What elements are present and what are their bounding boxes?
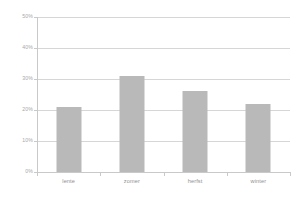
x-axis-category-label: zomer (124, 179, 140, 185)
x-axis-tick (164, 173, 165, 176)
y-axis-tick-label: 0% (25, 169, 33, 174)
bar-slot (100, 17, 163, 172)
x-axis-tick (37, 173, 38, 176)
x-axis-tick (100, 173, 101, 176)
bar-slot (37, 17, 100, 172)
x-axis-tick (290, 173, 291, 176)
x-axis-category-label: lente (62, 179, 75, 185)
bar-chart-figure: 0%10%20%30%40%50% lentezomerherfstwinter (0, 0, 304, 203)
bar-slot (164, 17, 227, 172)
y-axis-tick-label: 10% (22, 138, 33, 143)
y-axis-tick-label: 50% (22, 14, 33, 19)
bar-slot (227, 17, 290, 172)
bar-lente[interactable] (56, 107, 81, 172)
x-axis-category-label: winter (251, 179, 267, 185)
bar-winter[interactable] (246, 104, 271, 172)
bar-herfst[interactable] (183, 91, 208, 172)
x-axis-category-label: herfst (188, 179, 203, 185)
bar-zomer[interactable] (119, 76, 144, 172)
y-axis-tick-label: 30% (22, 76, 33, 81)
bars-layer (37, 17, 290, 172)
y-axis-tick-label: 40% (22, 45, 33, 50)
x-axis-tick (227, 173, 228, 176)
y-axis-tick-label: 20% (22, 107, 33, 112)
